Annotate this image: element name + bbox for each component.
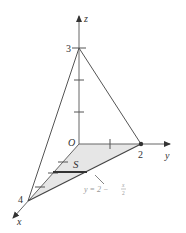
z-axis-label: z	[83, 13, 88, 24]
equation-fraction-numerator: x	[121, 182, 125, 188]
region-label: S	[73, 158, 79, 170]
x-intercept-label: 4	[18, 194, 23, 205]
equation-fraction-denominator: 2	[122, 190, 125, 196]
x-axis	[13, 144, 79, 218]
y-axis-label: y	[164, 150, 170, 161]
equation-leader	[95, 175, 104, 184]
tetrahedron-diagram: z y x O 3 2 4 S y = 2 − x 2	[0, 0, 186, 233]
y-intercept-label: 2	[138, 149, 143, 160]
equation-lhs: y = 2 −	[83, 185, 108, 194]
edge-z3-to-y2	[79, 48, 141, 144]
z-intercept-label: 3	[66, 43, 71, 54]
boundary-equation: y = 2 − x 2	[83, 182, 126, 196]
x-axis-label: x	[16, 216, 22, 227]
origin-label: O	[68, 137, 75, 148]
point-y2	[139, 142, 143, 146]
